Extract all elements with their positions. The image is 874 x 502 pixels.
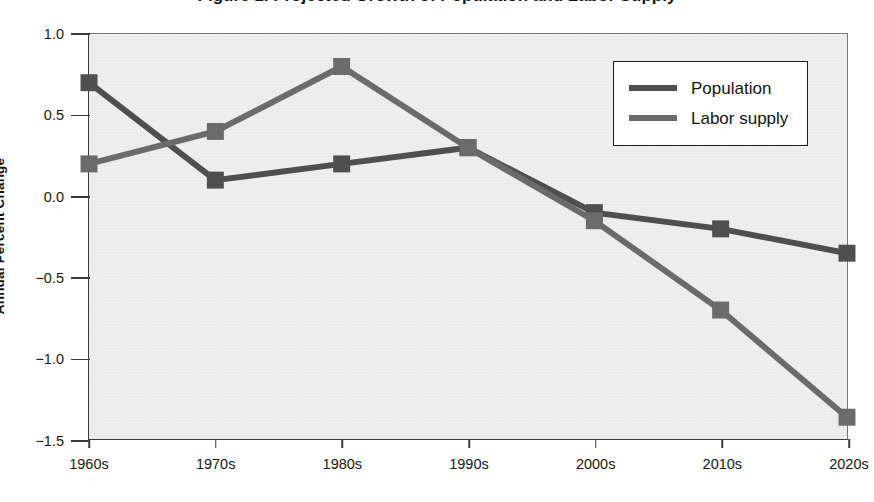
x-tick: 1980s bbox=[323, 439, 363, 472]
data-point-marker bbox=[839, 409, 856, 426]
data-point-marker bbox=[207, 123, 224, 140]
y-tick-label: −0.5 bbox=[35, 271, 71, 286]
chart-title-cropped: Figure 1. Projected Growth of Population… bbox=[0, 0, 874, 5]
data-point-marker bbox=[333, 155, 350, 172]
legend-swatch-labor-supply bbox=[629, 115, 677, 122]
x-tick-mark bbox=[342, 439, 344, 448]
data-point-marker bbox=[712, 220, 729, 237]
legend-label: Population bbox=[691, 80, 771, 97]
x-tick: 2010s bbox=[703, 439, 743, 472]
x-tick-mark bbox=[215, 439, 217, 448]
legend-row: Labor supply bbox=[629, 103, 788, 133]
chart-legend: PopulationLabor supply bbox=[613, 61, 808, 146]
data-point-marker bbox=[460, 139, 477, 156]
y-tick-mark bbox=[71, 115, 90, 117]
x-tick: 2000s bbox=[576, 439, 616, 472]
x-tick-label: 1980s bbox=[323, 456, 363, 472]
y-tick-mark bbox=[71, 33, 90, 35]
x-tick-mark bbox=[468, 439, 470, 448]
x-tick-label: 1990s bbox=[449, 456, 489, 472]
data-point-marker bbox=[81, 155, 98, 172]
data-point-marker bbox=[712, 302, 729, 319]
x-tick-mark bbox=[595, 439, 597, 448]
legend-swatch-population bbox=[629, 85, 677, 92]
y-tick-label: 0.5 bbox=[44, 108, 71, 123]
plot-area: 1.00.50.0−0.5−1.0−1.5 1960s1970s1980s199… bbox=[88, 33, 848, 440]
x-tick: 1960s bbox=[69, 439, 109, 472]
x-tick-mark bbox=[848, 439, 850, 448]
x-tick-label: 2000s bbox=[576, 456, 616, 472]
data-point-marker bbox=[839, 245, 856, 262]
x-tick-label: 1970s bbox=[196, 456, 236, 472]
y-tick-label: 1.0 bbox=[44, 27, 71, 42]
data-point-marker bbox=[207, 172, 224, 189]
legend-label: Labor supply bbox=[691, 110, 788, 127]
y-tick-mark bbox=[71, 196, 90, 198]
data-point-marker bbox=[81, 74, 98, 91]
figure-container: Figure 1. Projected Growth of Population… bbox=[0, 0, 874, 502]
data-point-marker bbox=[333, 58, 350, 75]
y-tick-label: −1.0 bbox=[35, 352, 71, 367]
chart-title-text: Figure 1. Projected Growth of Population… bbox=[0, 0, 874, 4]
y-axis-label: Annual Percent Change bbox=[0, 106, 7, 366]
legend-row: Population bbox=[629, 73, 788, 103]
x-tick-mark bbox=[722, 439, 724, 448]
x-tick: 1990s bbox=[449, 439, 489, 472]
x-tick-label: 2010s bbox=[703, 456, 743, 472]
y-tick-mark bbox=[71, 359, 90, 361]
x-tick: 1970s bbox=[196, 439, 236, 472]
data-point-marker bbox=[586, 212, 603, 229]
x-tick-label: 2020s bbox=[829, 456, 869, 472]
y-tick-mark bbox=[71, 277, 90, 279]
x-tick-mark bbox=[88, 439, 90, 448]
y-tick-label: −1.5 bbox=[35, 434, 71, 449]
y-tick-label: 0.0 bbox=[44, 190, 71, 205]
x-tick-label: 1960s bbox=[69, 456, 109, 472]
x-tick: 2020s bbox=[829, 439, 869, 472]
